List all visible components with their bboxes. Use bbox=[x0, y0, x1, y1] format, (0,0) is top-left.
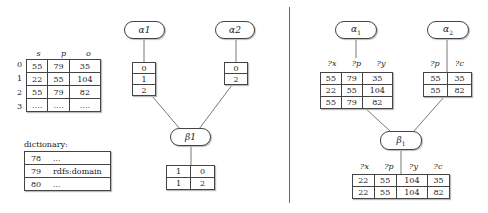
table-cell: 35 bbox=[362, 73, 392, 85]
table-row: 80... bbox=[25, 178, 111, 191]
table-cell: 35 bbox=[428, 175, 450, 187]
column-header: ?c bbox=[447, 59, 472, 68]
triple-table: 55 79 35 22 55 104 55 79 82 .... .... ..… bbox=[26, 59, 101, 112]
beta1-table: 1 0 1 2 bbox=[166, 165, 215, 190]
column-header-o: o bbox=[76, 49, 101, 58]
row-index: 2 bbox=[17, 88, 22, 97]
table-cell: 55 bbox=[27, 86, 48, 99]
row-index: 0 bbox=[17, 60, 22, 69]
column-header: ?x bbox=[352, 162, 377, 171]
table-cell: 55 bbox=[321, 73, 342, 85]
table-cell: 104 bbox=[396, 187, 428, 199]
dictionary-id: 79 bbox=[31, 167, 53, 176]
table-cell: 55 bbox=[48, 73, 69, 86]
table-cell: 22 bbox=[353, 187, 375, 199]
column-header: ?x bbox=[320, 59, 344, 68]
alpha2-column: 0 2 bbox=[224, 62, 248, 85]
column-header: ?p bbox=[377, 162, 401, 171]
column-header: ?c bbox=[426, 162, 450, 171]
beta1-table: 22 55 104 35 22 55 104 82 bbox=[352, 174, 450, 199]
table-cell: 82 bbox=[362, 97, 392, 109]
node-beta-sub1: β1 bbox=[380, 131, 422, 150]
dictionary-label: dictionary: bbox=[24, 140, 68, 149]
table-cell: 55 bbox=[424, 85, 448, 97]
table-cell: 2 bbox=[225, 74, 248, 85]
table-cell: 79 bbox=[341, 73, 362, 85]
alpha2-table: 55 35 55 82 bbox=[423, 72, 472, 97]
table-cell: 1 bbox=[167, 166, 191, 178]
node-alpha-sub1: α1 bbox=[335, 21, 377, 39]
column-header: ?p bbox=[344, 59, 369, 68]
table-cell: 0 bbox=[191, 166, 215, 178]
table-cell: 55 bbox=[424, 73, 448, 85]
dictionary-value: rdfs:domain bbox=[53, 167, 102, 176]
table-row: .... .... .... bbox=[27, 99, 101, 112]
table-cell: .... bbox=[27, 99, 48, 112]
table-cell: 104 bbox=[396, 175, 428, 187]
column-header: ?p bbox=[423, 59, 447, 68]
table-cell: 79 bbox=[48, 86, 69, 99]
table-cell: 0 bbox=[225, 63, 248, 74]
table-cell: 55 bbox=[374, 187, 396, 199]
column-header-p: p bbox=[51, 49, 76, 58]
node-label: α2 bbox=[443, 24, 453, 36]
alpha1-column: 0 1 2 bbox=[132, 62, 156, 96]
dictionary-id: 80 bbox=[31, 180, 53, 189]
row-index: 1 bbox=[17, 74, 22, 83]
table-cell: 82 bbox=[69, 86, 100, 99]
table-cell: 55 bbox=[27, 60, 48, 73]
table-cell: 55 bbox=[374, 175, 396, 187]
table-cell: 104 bbox=[362, 85, 392, 97]
dictionary-id: 78 bbox=[31, 154, 53, 163]
table-cell: 22 bbox=[353, 175, 375, 187]
node-alpha2: α2 bbox=[215, 21, 255, 39]
table-cell: 22 bbox=[27, 73, 48, 86]
table-cell: 55 bbox=[341, 85, 362, 97]
node-label: β1 bbox=[396, 135, 405, 147]
alpha1-table: 55 79 35 22 55 104 55 79 82 bbox=[320, 72, 393, 109]
table-row: 78... bbox=[25, 152, 111, 165]
node-label: α1 bbox=[139, 25, 151, 35]
table-cell: 35 bbox=[69, 60, 100, 73]
table-row: 22 55 104 bbox=[27, 73, 101, 86]
table-cell: 1 bbox=[133, 74, 156, 85]
table-row: 55 79 82 bbox=[27, 86, 101, 99]
table-cell: 1 bbox=[167, 178, 191, 190]
dictionary-value: ... bbox=[53, 154, 61, 163]
column-header: ?y bbox=[369, 59, 393, 68]
table-cell: 82 bbox=[428, 187, 450, 199]
column-header: ?y bbox=[401, 162, 426, 171]
table-row: 79rdfs:domain bbox=[25, 165, 111, 178]
table-cell: 79 bbox=[341, 97, 362, 109]
table-cell: .... bbox=[48, 99, 69, 112]
dictionary-table: 78... 79rdfs:domain 80... bbox=[24, 151, 111, 191]
node-beta1: β1 bbox=[170, 128, 211, 146]
node-alpha1: α1 bbox=[124, 21, 165, 39]
table-cell: 2 bbox=[191, 178, 215, 190]
panel-divider bbox=[289, 7, 290, 203]
column-header-s: s bbox=[26, 49, 51, 58]
table-cell: 79 bbox=[48, 60, 69, 73]
node-label: β1 bbox=[185, 132, 196, 142]
table-cell: 35 bbox=[448, 73, 472, 85]
table-cell: 82 bbox=[448, 85, 472, 97]
node-label: α1 bbox=[351, 24, 361, 36]
table-cell: 22 bbox=[321, 85, 342, 97]
table-cell: 55 bbox=[321, 97, 342, 109]
table-row: 55 79 35 bbox=[27, 60, 101, 73]
node-label: α2 bbox=[229, 25, 241, 35]
row-index: 3 bbox=[17, 102, 22, 111]
dictionary-value: ... bbox=[53, 180, 61, 189]
table-cell: .... bbox=[69, 99, 100, 112]
table-cell: 0 bbox=[133, 63, 156, 74]
table-cell: 2 bbox=[133, 85, 156, 96]
node-alpha-sub2: α2 bbox=[427, 21, 469, 39]
table-cell: 104 bbox=[69, 73, 100, 86]
